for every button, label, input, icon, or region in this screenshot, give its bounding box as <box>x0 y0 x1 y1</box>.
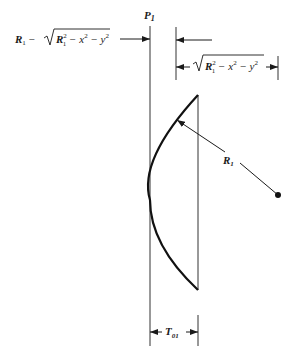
radius-arrow-upper <box>177 120 225 152</box>
radius-arrow-lower <box>240 163 278 195</box>
center-of-curvature-dot <box>275 192 281 198</box>
radius-label: R1 <box>222 154 234 168</box>
lens-diagram: P1 R1 − R21 − x2 − y2 R21 − x2 − y2 R1 T… <box>0 0 293 356</box>
thickness-label: T01 <box>165 325 179 340</box>
sqrt-dimension-label: R21 − x2 − y2 <box>204 59 258 75</box>
plane-label: P1 <box>144 9 155 23</box>
sag-expression-label: R1 − <box>14 33 35 47</box>
lens-curved-surface <box>148 95 198 290</box>
sag-sqrt-inner: R21 − x2 − y2 <box>55 32 109 48</box>
